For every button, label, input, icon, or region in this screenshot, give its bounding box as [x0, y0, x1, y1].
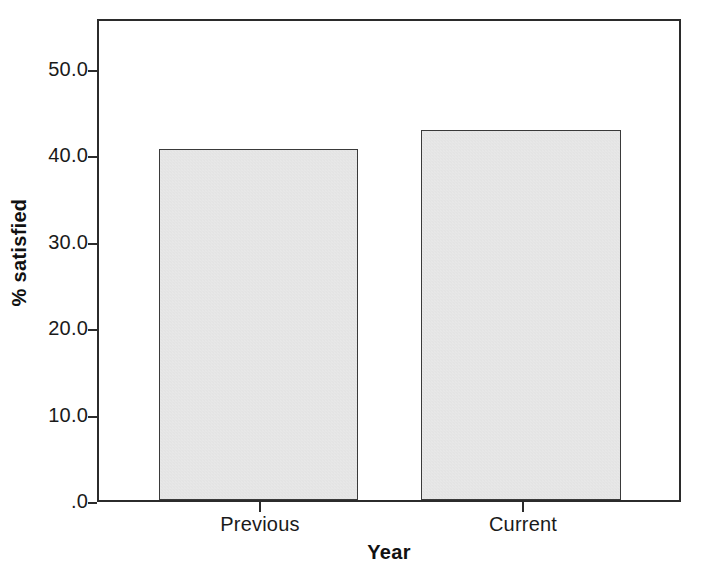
y-tick-label-0: .0: [71, 490, 88, 513]
x-axis-title: Year: [97, 541, 681, 564]
y-tick-label-50: 50.0: [48, 58, 88, 81]
bar-previous: [159, 149, 358, 500]
x-tick-mark-previous: [259, 502, 261, 512]
bar-current: [421, 130, 621, 500]
y-tick-label-10: 10.0: [48, 404, 88, 427]
y-axis-title-text: % satisfied: [9, 198, 32, 306]
y-tick-mark-40: [88, 156, 97, 158]
x-tick-mark-current: [522, 502, 524, 512]
y-tick-label-30: 30.0: [48, 231, 88, 254]
x-tick-label-current: Current: [489, 513, 557, 536]
bar-chart-figure: 50.0 40.0 30.0 20.0 10.0 .0 Previous Cur…: [0, 0, 701, 574]
y-tick-label-20: 20.0: [48, 317, 88, 340]
y-tick-mark-30: [88, 243, 97, 245]
plot-area: [97, 19, 681, 502]
y-tick-mark-50: [88, 70, 97, 72]
y-tick-label-40: 40.0: [48, 144, 88, 167]
x-tick-label-previous: Previous: [220, 513, 299, 536]
y-tick-mark-10: [88, 416, 97, 418]
y-tick-mark-0: [88, 502, 97, 504]
y-axis-title: % satisfied: [0, 0, 40, 574]
y-tick-mark-20: [88, 329, 97, 331]
